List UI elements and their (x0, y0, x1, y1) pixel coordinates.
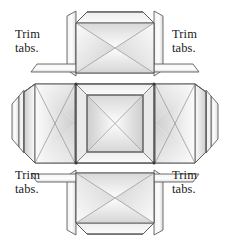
trim-tabs-label-line2: tabs. (172, 182, 197, 196)
trim-tabs-label-line1: Trim (172, 27, 197, 41)
trim-tabs-label-line2: tabs. (15, 182, 40, 196)
trim-tabs-label-line1: Trim (15, 168, 40, 182)
trim-tabs-label-bottom-right: Trim tabs. (172, 168, 197, 196)
trim-tabs-label-top-left: Trim tabs. (15, 27, 40, 55)
diagram-canvas: Trim tabs. Trim tabs. Trim tabs. Trim ta… (0, 0, 230, 246)
panel-bottom (76, 173, 154, 234)
panel-top (76, 12, 154, 73)
panel-right (155, 84, 206, 163)
trim-tabs-label-line1: Trim (172, 168, 197, 182)
tab-far-right-flap (206, 90, 218, 153)
trim-tabs-label-line2: tabs. (172, 41, 197, 55)
trim-tabs-label-top-right: Trim tabs. (172, 27, 197, 55)
panel-left (24, 84, 75, 163)
trim-tabs-label-bottom-left: Trim tabs. (15, 168, 40, 196)
panel-center (76, 84, 154, 163)
tab-far-left-flap (12, 90, 24, 153)
trim-tabs-label-line2: tabs. (15, 41, 40, 55)
trim-tabs-label-line1: Trim (15, 27, 40, 41)
